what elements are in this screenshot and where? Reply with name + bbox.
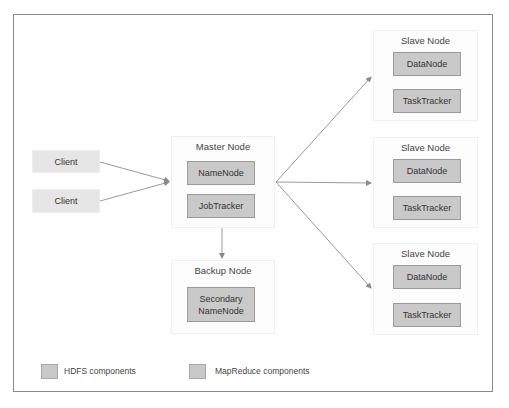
jobtracker-label: JobTracker [199, 200, 244, 212]
slave-node-title: Slave Node [374, 35, 477, 46]
jobtracker-box: JobTracker [187, 194, 255, 218]
backup-node-container: Backup Node Secondary NameNode [171, 260, 275, 334]
namenode-label: NameNode [198, 167, 244, 179]
legend-label-mapreduce: MapReduce components [215, 366, 310, 376]
datanode-box: DataNode [393, 52, 461, 76]
slave-node-title: Slave Node [374, 248, 477, 259]
client-label: Client [54, 196, 77, 206]
tasktracker-box: TaskTracker [393, 89, 461, 113]
master-node-container: Master Node NameNode JobTracker [171, 136, 275, 228]
datanode-box: DataNode [393, 265, 461, 289]
legend-swatch-mapreduce [189, 364, 206, 379]
client-box: Client [32, 189, 100, 213]
client-box: Client [32, 150, 100, 173]
tasktracker-box: TaskTracker [393, 303, 461, 327]
legend-label-hdfs: HDFS components [64, 366, 136, 376]
master-node-title: Master Node [172, 141, 274, 152]
slave-node-container: Slave Node DataNode TaskTracker [373, 137, 478, 228]
secondary-namenode-box: Secondary NameNode [187, 287, 255, 322]
datanode-box: DataNode [393, 159, 461, 183]
slave-node-container: Slave Node DataNode TaskTracker [373, 243, 478, 335]
tasktracker-box: TaskTracker [393, 196, 461, 220]
tasktracker-label: TaskTracker [403, 202, 452, 214]
client-label: Client [54, 157, 77, 167]
tasktracker-label: TaskTracker [403, 95, 452, 107]
datanode-label: DataNode [407, 271, 448, 283]
tasktracker-label: TaskTracker [403, 309, 452, 321]
secondary-namenode-label: Secondary NameNode [196, 293, 246, 317]
slave-node-title: Slave Node [374, 142, 477, 153]
slave-node-container: Slave Node DataNode TaskTracker [373, 30, 478, 121]
backup-node-title: Backup Node [172, 265, 274, 276]
legend-swatch-hdfs [41, 364, 58, 379]
datanode-label: DataNode [407, 165, 448, 177]
namenode-box: NameNode [187, 161, 255, 185]
datanode-label: DataNode [407, 58, 448, 70]
